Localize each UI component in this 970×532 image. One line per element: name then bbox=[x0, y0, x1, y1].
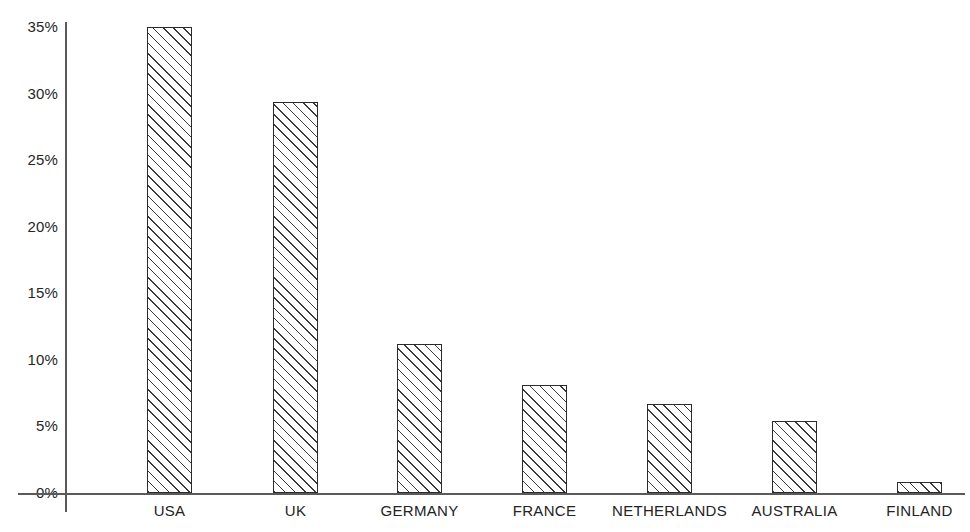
bar bbox=[397, 344, 442, 493]
bar bbox=[647, 404, 692, 493]
bar bbox=[273, 102, 318, 493]
bar bbox=[897, 482, 942, 493]
bar bbox=[147, 27, 192, 493]
plot-area: USAUKGERMANYFRANCENETHERLANDSAUSTRALIAFI… bbox=[0, 0, 970, 532]
bar bbox=[772, 421, 817, 493]
bar-chart: 35%30%25%20%15%10%5%0% USAUKGERMANYFRANC… bbox=[0, 0, 970, 532]
bar bbox=[522, 385, 567, 493]
x-axis-tick-label: FINLAND bbox=[830, 503, 970, 519]
